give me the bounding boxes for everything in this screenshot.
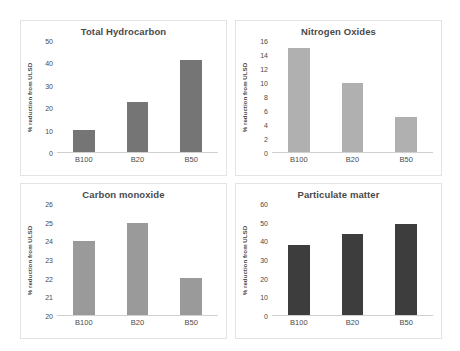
plot-area: % reduction from ULSD 01020304050 B100B2… (21, 41, 226, 175)
bar-series (57, 41, 218, 152)
y-axis-ticks: 20212223242526 (35, 204, 55, 316)
x-axis-line (57, 152, 218, 153)
bar (73, 241, 94, 315)
bar-slot (379, 204, 433, 315)
y-tick-label: 24 (45, 238, 53, 245)
chart-title: Total Hydrocarbon (21, 26, 226, 37)
x-tick-label: B50 (164, 155, 218, 171)
y-tick-label: 40 (260, 238, 268, 245)
x-tick-label: B50 (164, 318, 218, 334)
x-axis-ticks: B100B20B50 (57, 155, 218, 171)
y-tick-label: 20 (45, 105, 53, 112)
bar-slot (57, 41, 111, 152)
plot-area: % reduction from ULSD 20212223242526 B10… (21, 204, 226, 338)
x-axis-ticks: B100B20B50 (57, 318, 218, 334)
bar-slot (111, 41, 165, 152)
y-tick-label: 8 (264, 94, 268, 101)
bar (395, 224, 416, 315)
bar (288, 48, 309, 152)
y-tick-label: 50 (260, 219, 268, 226)
bar-series (57, 204, 218, 315)
x-tick-label: B100 (272, 318, 326, 334)
y-tick-label: 14 (260, 52, 268, 59)
chart-title: Nitrogen Oxides (236, 26, 441, 37)
chart-panel-nitrogen-oxides: Nitrogen Oxides % reduction from ULSD 02… (235, 20, 442, 176)
chart-grid: Total Hydrocarbon % reduction from ULSD … (0, 0, 460, 351)
bar (288, 245, 309, 315)
x-axis-ticks: B100B20B50 (272, 318, 433, 334)
bar (342, 234, 363, 315)
x-axis-line (57, 315, 218, 316)
x-tick-label: B100 (57, 318, 111, 334)
y-tick-label: 23 (45, 257, 53, 264)
bar (180, 278, 201, 315)
chart-panel-total-hydrocarbon: Total Hydrocarbon % reduction from ULSD … (20, 20, 227, 176)
plot-area: % reduction from ULSD 0246810121416 B100… (236, 41, 441, 175)
y-tick-label: 2 (264, 136, 268, 143)
chart-title: Particulate matter (236, 189, 441, 200)
axis-area (57, 41, 218, 153)
x-tick-label: B100 (272, 155, 326, 171)
x-tick-label: B20 (326, 155, 380, 171)
y-tick-label: 40 (45, 60, 53, 67)
bar (342, 83, 363, 152)
axis-area (272, 204, 433, 316)
plot-area: % reduction from ULSD 0102030405060 B100… (236, 204, 441, 338)
y-tick-label: 16 (260, 38, 268, 45)
bar-slot (272, 204, 326, 315)
y-tick-label: 21 (45, 294, 53, 301)
x-axis-line (272, 315, 433, 316)
bar (180, 60, 201, 152)
bar-slot (164, 41, 218, 152)
y-tick-label: 20 (260, 275, 268, 282)
bar-slot (326, 204, 380, 315)
bar-series (272, 204, 433, 315)
y-tick-label: 30 (45, 82, 53, 89)
x-tick-label: B20 (111, 155, 165, 171)
bar-slot (57, 204, 111, 315)
x-tick-label: B50 (379, 318, 433, 334)
bar-slot (111, 204, 165, 315)
y-tick-label: 10 (260, 294, 268, 301)
y-tick-label: 4 (264, 122, 268, 129)
y-tick-label: 10 (260, 80, 268, 87)
axis-area (272, 41, 433, 153)
x-tick-label: B100 (57, 155, 111, 171)
bar (395, 117, 416, 152)
y-tick-label: 0 (49, 150, 53, 157)
x-axis-ticks: B100B20B50 (272, 155, 433, 171)
y-tick-label: 60 (260, 201, 268, 208)
y-tick-label: 30 (260, 257, 268, 264)
chart-title: Carbon monoxide (21, 189, 226, 200)
y-tick-label: 6 (264, 108, 268, 115)
y-tick-label: 25 (45, 219, 53, 226)
y-tick-label: 0 (264, 313, 268, 320)
x-tick-label: B20 (111, 318, 165, 334)
bar-slot (326, 41, 380, 152)
y-tick-label: 26 (45, 201, 53, 208)
bar (127, 102, 148, 152)
bar-slot (379, 41, 433, 152)
bar-slot (164, 204, 218, 315)
bar-series (272, 41, 433, 152)
y-axis-ticks: 01020304050 (35, 41, 55, 153)
y-tick-label: 22 (45, 275, 53, 282)
axis-area (57, 204, 218, 316)
x-tick-label: B50 (379, 155, 433, 171)
y-tick-label: 10 (45, 127, 53, 134)
y-axis-ticks: 0102030405060 (250, 204, 270, 316)
y-tick-label: 50 (45, 38, 53, 45)
x-axis-line (272, 152, 433, 153)
bar (127, 223, 148, 316)
y-tick-label: 20 (45, 313, 53, 320)
y-axis-ticks: 0246810121416 (250, 41, 270, 153)
bar-slot (272, 41, 326, 152)
x-tick-label: B20 (326, 318, 380, 334)
bar (73, 130, 94, 152)
chart-panel-carbon-monoxide: Carbon monoxide % reduction from ULSD 20… (20, 183, 227, 339)
y-tick-label: 0 (264, 150, 268, 157)
y-tick-label: 12 (260, 66, 268, 73)
chart-panel-particulate-matter: Particulate matter % reduction from ULSD… (235, 183, 442, 339)
